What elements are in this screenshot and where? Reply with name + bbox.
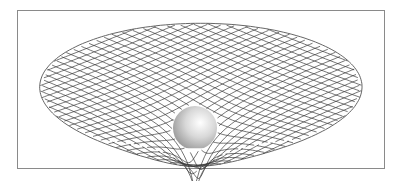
gravity-well-diagram [0,0,404,181]
grid-line [56,116,109,141]
grid-line [104,37,324,128]
grid-line [154,27,353,108]
spacetime-grid-mesh [40,24,361,181]
grid-line [143,29,347,112]
grid-line [64,32,279,121]
grid-line [44,80,183,164]
grid-line [69,34,289,126]
grid-line [262,99,357,144]
grid-line [62,57,255,146]
grid-line [292,116,346,140]
grid-line [167,26,355,102]
grid-line [137,152,160,154]
grid-line [246,91,362,147]
grid-line [257,146,275,150]
massive-sphere [173,106,217,150]
grid-line [142,147,177,165]
grid-line [109,142,115,144]
sphere-body [173,106,217,150]
grid-line [271,143,286,147]
grid-line [54,29,258,113]
grid-line [268,29,348,61]
grid-line [43,24,208,91]
grid-line [194,24,359,90]
